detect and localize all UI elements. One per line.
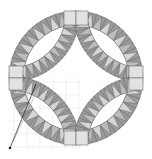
connector-block [129,78,143,90]
connector-block [64,11,76,25]
connector-block [76,131,88,145]
connector-block [129,66,143,78]
connector-block [9,78,23,90]
connector-block [64,131,76,145]
connector-block [9,66,23,78]
quilt-diagram [0,0,152,159]
pointer-dot [9,147,12,150]
connector-block [76,11,88,25]
